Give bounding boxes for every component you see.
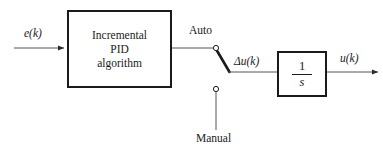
input-signal-label: e(k) xyxy=(24,27,42,40)
manual-label: Manual xyxy=(196,132,231,145)
pid-algorithm-block: Incremental PID algorithm xyxy=(67,10,172,88)
pid-block-line-1: Incremental xyxy=(92,28,147,42)
fraction-denominator: s xyxy=(300,75,305,89)
pid-block-line-3: algorithm xyxy=(97,56,142,70)
auto-label: Auto xyxy=(189,24,212,37)
delta-u-label: Δu(k) xyxy=(234,55,259,68)
integrator-block: 1 s xyxy=(277,51,327,97)
switch-blade[interactable] xyxy=(216,49,230,72)
auto-terminal-circle[interactable] xyxy=(213,45,218,50)
block-diagram: Incremental PID algorithm 1 s e(k) Auto … xyxy=(0,0,383,159)
transfer-function-fraction: 1 s xyxy=(292,60,312,88)
manual-terminal-circle[interactable] xyxy=(213,86,218,91)
fraction-numerator: 1 xyxy=(299,60,305,74)
pid-block-line-2: PID xyxy=(110,42,129,56)
output-signal-label: u(k) xyxy=(340,52,359,65)
